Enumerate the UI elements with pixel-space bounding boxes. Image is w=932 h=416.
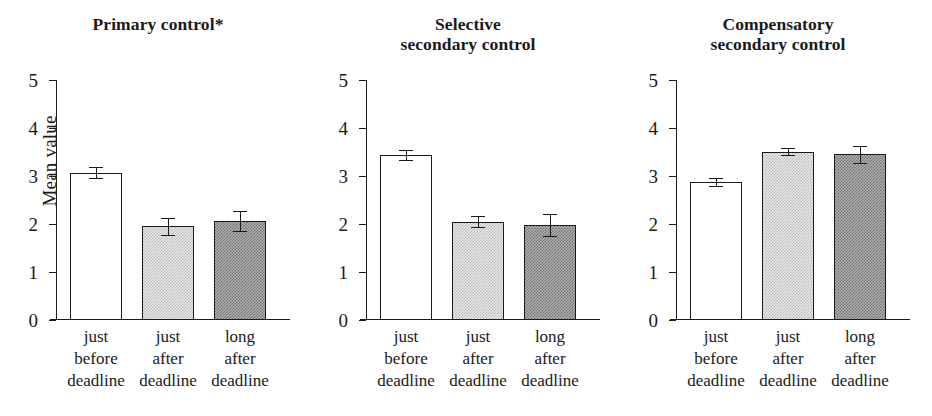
chart-panel-1: Primary control*012345justbeforedeadline… (8, 0, 308, 416)
chart-panel-2: Selectivesecondary control012345justbefo… (318, 0, 618, 416)
error-bar-cap-lower (471, 227, 485, 228)
y-axis-tick (669, 320, 676, 321)
y-axis-tick (359, 80, 366, 81)
panel-title-line: Primary control* (8, 14, 308, 34)
x-axis-category-label: longafterdeadline (810, 326, 910, 392)
panel-title-line: secondary control (628, 34, 928, 54)
panel-title: Primary control* (8, 14, 308, 34)
y-axis-tick-label: 4 (339, 119, 349, 138)
y-axis-tick (359, 176, 366, 177)
y-axis-tick-label: 4 (29, 119, 39, 138)
category-label-line: long (500, 326, 600, 348)
y-axis-tick-label: 4 (649, 119, 659, 138)
error-bar-cap-upper (89, 167, 103, 168)
y-axis-tick (669, 128, 676, 129)
error-bar-cap-lower (781, 155, 795, 156)
y-axis-tick-label: 3 (29, 167, 39, 186)
error-bar-stem (240, 211, 241, 231)
error-bar-cap-lower (399, 160, 413, 161)
error-bar-cap-upper (853, 146, 867, 147)
y-axis-tick-label: 2 (29, 215, 39, 234)
bar (524, 225, 576, 320)
bar (452, 222, 504, 320)
y-axis-line (366, 80, 367, 320)
category-label-line: long (190, 326, 290, 348)
x-axis-category-label: longafterdeadline (500, 326, 600, 392)
y-axis-tick (669, 224, 676, 225)
y-axis-tick-label: 0 (649, 311, 659, 330)
y-axis-tick-label: 5 (649, 71, 659, 90)
y-axis-tick (49, 224, 56, 225)
bar (380, 155, 432, 320)
y-axis-tick (49, 320, 56, 321)
panel-title-line: Compensatory (628, 14, 928, 34)
error-bar-stem (168, 218, 169, 234)
error-bar-cap-upper (233, 211, 247, 212)
y-axis-tick (669, 272, 676, 273)
y-axis-tick (359, 224, 366, 225)
figure-bar-chart-panels: Mean valuePrimary control*012345justbefo… (0, 0, 932, 416)
y-axis-tick (359, 272, 366, 273)
error-bar-cap-upper (543, 214, 557, 215)
bar (834, 154, 886, 320)
y-axis-tick-label: 5 (339, 71, 349, 90)
y-axis-tick-label: 1 (339, 263, 349, 282)
bar (214, 221, 266, 320)
bar (690, 182, 742, 320)
y-axis-tick (49, 128, 56, 129)
y-axis-tick-label: 2 (339, 215, 349, 234)
y-axis-tick (49, 80, 56, 81)
y-axis-line (676, 80, 677, 320)
category-label-line: after (810, 348, 910, 370)
y-axis-tick-label: 1 (649, 263, 659, 282)
y-axis-tick (49, 272, 56, 273)
category-label-line: after (190, 348, 290, 370)
error-bar-cap-upper (709, 178, 723, 179)
y-axis-tick-label: 2 (649, 215, 659, 234)
error-bar-stem (478, 216, 479, 227)
error-bar-cap-upper (471, 216, 485, 217)
error-bar-stem (96, 167, 97, 178)
plot-area: 012345 (56, 80, 284, 320)
category-label-line: deadline (500, 370, 600, 392)
chart-panel-3: Compensatorysecondary control012345justb… (628, 0, 928, 416)
error-bar-cap-lower (161, 235, 175, 236)
y-axis-tick (359, 128, 366, 129)
error-bar-cap-lower (709, 186, 723, 187)
error-bar-stem (406, 150, 407, 160)
error-bar-cap-lower (233, 231, 247, 232)
error-bar-cap-lower (853, 163, 867, 164)
y-axis-tick-label: 5 (29, 71, 39, 90)
category-label-line: long (810, 326, 910, 348)
category-label-line: deadline (190, 370, 290, 392)
error-bar-cap-upper (161, 218, 175, 219)
bar (70, 173, 122, 320)
error-bar-stem (716, 178, 717, 186)
bar (762, 152, 814, 320)
panel-title-line: secondary control (318, 34, 618, 54)
y-axis-tick (669, 80, 676, 81)
category-label-line: deadline (810, 370, 910, 392)
error-bar-stem (860, 146, 861, 162)
y-axis-tick-label: 3 (649, 167, 659, 186)
error-bar-stem (550, 214, 551, 236)
y-axis-tick (359, 320, 366, 321)
y-axis-tick (669, 176, 676, 177)
plot-area: 012345 (676, 80, 904, 320)
y-axis-line (56, 80, 57, 320)
y-axis-tick-label: 1 (29, 263, 39, 282)
error-bar-stem (788, 148, 789, 155)
y-axis-tick-label: 0 (29, 311, 39, 330)
y-axis-tick-label: 0 (339, 311, 349, 330)
error-bar-cap-upper (781, 148, 795, 149)
error-bar-cap-upper (399, 150, 413, 151)
error-bar-cap-lower (89, 178, 103, 179)
plot-area: 012345 (366, 80, 594, 320)
bar (142, 226, 194, 320)
panel-title: Compensatorysecondary control (628, 14, 928, 54)
error-bar-cap-lower (543, 236, 557, 237)
panel-title: Selectivesecondary control (318, 14, 618, 54)
panel-title-line: Selective (318, 14, 618, 34)
y-axis-tick-label: 3 (339, 167, 349, 186)
category-label-line: after (500, 348, 600, 370)
